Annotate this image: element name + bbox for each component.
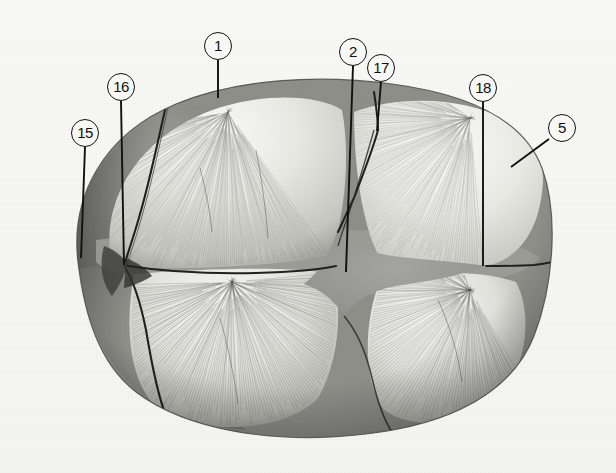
skull-body: [0, 0, 616, 473]
figure-canvas: 12171851615: [0, 0, 616, 473]
callout-label-15[interactable]: 15: [71, 119, 99, 147]
callout-label-2[interactable]: 2: [339, 38, 367, 66]
callout-label-18[interactable]: 18: [469, 74, 497, 102]
callout-label-17[interactable]: 17: [367, 54, 395, 82]
callout-label-16[interactable]: 16: [107, 73, 135, 101]
callout-label-1[interactable]: 1: [204, 32, 232, 60]
callout-label-5[interactable]: 5: [548, 114, 576, 142]
skull-illustration: [0, 0, 616, 473]
